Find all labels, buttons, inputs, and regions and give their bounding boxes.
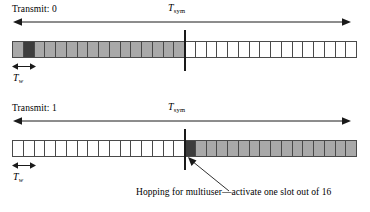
tw-label-0: Tw (13, 72, 23, 84)
tsym-symbol-1: T (168, 101, 174, 112)
slot-cell (336, 42, 347, 57)
tsym-subscript-0: sym (174, 7, 185, 14)
tsym-symbol-0: T (168, 2, 174, 13)
slot-cell (153, 141, 164, 156)
slot-cell (110, 141, 121, 156)
callout-text: Hopping for multiuser—activate one slot … (136, 186, 331, 198)
tw-label-1: Tw (13, 171, 23, 183)
tsym-label-0: Tsym (168, 2, 185, 15)
slot-cell (271, 141, 282, 156)
slot-cell (142, 42, 153, 57)
slot-cell (196, 141, 207, 156)
slot-cell (99, 141, 110, 156)
slot-cell (131, 141, 142, 156)
tsym-span-double-arrow-0 (13, 17, 351, 27)
slot-cell (228, 42, 239, 57)
slot-cell (67, 141, 78, 156)
slot-cell (346, 42, 356, 57)
slot-cell (78, 42, 89, 57)
slot-cell (99, 42, 110, 57)
slot-cell (185, 141, 196, 156)
slot-cell (282, 141, 293, 156)
slot-cell (56, 42, 67, 57)
slot-cell (110, 42, 121, 57)
slot-cell (164, 141, 175, 156)
slot-cell (303, 42, 314, 57)
slot-cell (271, 42, 282, 57)
slot-cell (35, 42, 46, 57)
slot-cell (35, 141, 46, 156)
slot-cell (228, 141, 239, 156)
slot-cell (13, 42, 24, 57)
tw-subscript-0: w (19, 77, 23, 84)
tsym-span-double-arrow-1 (13, 116, 351, 126)
slot-cell (325, 42, 336, 57)
slot-cell (314, 141, 325, 156)
slot-cell (282, 42, 293, 57)
slot-cell (88, 42, 99, 57)
slot-hopping-diagram: Transmit: 0 Tsym Tw Transmit: 1 Tsym (0, 0, 370, 212)
slot-cell (121, 141, 132, 156)
slot-cell (239, 42, 250, 57)
slot-cell (303, 141, 314, 156)
tw-double-arrow-1 (12, 161, 36, 170)
slot-cell (78, 141, 89, 156)
transmit-label-0: Transmit: 0 (12, 3, 57, 15)
slot-cell (142, 141, 153, 156)
slot-cell (24, 141, 35, 156)
slot-cell (196, 42, 207, 57)
slot-cell (121, 42, 132, 57)
slot-cell (131, 42, 142, 57)
slot-cell (336, 141, 347, 156)
slot-cell (88, 141, 99, 156)
tsym-label-1: Tsym (168, 101, 185, 114)
slot-cell (250, 42, 261, 57)
tw-subscript-1: w (19, 176, 23, 183)
slot-cell (217, 42, 228, 57)
slot-cell (293, 42, 304, 57)
slot-cell (13, 141, 24, 156)
slot-cell (314, 42, 325, 57)
slot-cell (260, 141, 271, 156)
slot-cell (164, 42, 175, 57)
slot-cell (217, 141, 228, 156)
slot-cell (207, 141, 218, 156)
tw-symbol-0: T (13, 72, 19, 83)
tw-symbol-1: T (13, 171, 19, 182)
tsym-subscript-1: sym (174, 106, 185, 113)
slot-cell (346, 141, 356, 156)
transmit-panel-0: Transmit: 0 Tsym Tw (0, 0, 370, 106)
tw-double-arrow-0 (12, 62, 36, 71)
slot-cell (45, 42, 56, 57)
slot-cell (250, 141, 261, 156)
slot-cell (56, 141, 67, 156)
transmit-label-1: Transmit: 1 (12, 102, 57, 114)
slot-cell (185, 42, 196, 57)
slot-cell (153, 42, 164, 57)
slot-cell (325, 141, 336, 156)
slot-cell (293, 141, 304, 156)
slot-cell (24, 42, 35, 57)
tsym-divider-0 (184, 30, 186, 71)
slot-cell (67, 42, 78, 57)
slot-cell (207, 42, 218, 57)
slot-cell (260, 42, 271, 57)
slot-cell (239, 141, 250, 156)
slot-cell (45, 141, 56, 156)
